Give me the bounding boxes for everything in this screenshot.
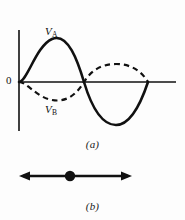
panel-a-waveform: 0 VA VB	[0, 0, 185, 160]
caption-panel-a: (a)	[0, 138, 185, 150]
arrowhead-right-icon	[121, 172, 132, 181]
arrowhead-left-icon	[19, 172, 30, 181]
label-va-panel-a-symbol: V	[45, 25, 52, 37]
label-vb-panel-a-symbol: V	[45, 103, 52, 115]
figure-root: 0 VA VB (a) 0 VB VA (b)	[0, 0, 185, 220]
label-vb-panel-a-subscript: B	[52, 108, 57, 117]
caption-panel-b: (b)	[0, 200, 185, 212]
center-dot-marker	[65, 171, 75, 181]
label-va-panel-a: VA	[45, 25, 57, 37]
origin-label-panel-a: 0	[6, 74, 12, 86]
waveform-plot-svg	[0, 0, 185, 160]
label-va-panel-a-subscript: A	[52, 30, 57, 39]
label-vb-panel-a: VB	[45, 103, 57, 115]
